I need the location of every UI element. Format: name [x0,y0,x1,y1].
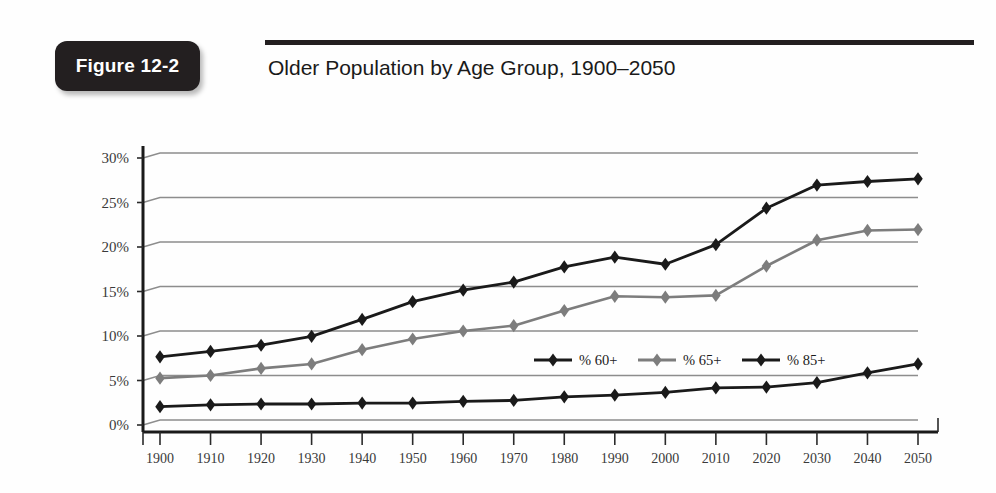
data-point [661,386,671,399]
data-point [812,234,822,247]
data-point [256,362,266,375]
data-point [711,289,721,302]
data-point [206,369,216,382]
data-point [560,304,570,317]
data-point [812,376,822,389]
data-point [863,175,873,188]
data-point [863,366,873,379]
data-point [812,178,822,191]
data-point [458,324,468,337]
title-rule-divider [265,40,974,45]
data-point [509,394,519,407]
data-point [206,398,216,411]
gridline-20% [143,242,918,247]
x-tick-label-2000: 2000 [651,451,679,466]
data-point [560,390,570,403]
gridline-0% [143,420,918,425]
data-point [206,345,216,358]
data-point [762,380,772,393]
figure-number-badge: Figure 12-2 [55,41,200,91]
x-tick-label-1930: 1930 [298,451,326,466]
data-point [155,350,165,363]
gridline-25% [143,198,918,203]
x-tick-label-1990: 1990 [601,451,629,466]
gridline-30% [143,153,918,158]
gridline-10% [143,331,918,336]
x-tick-label-1980: 1980 [550,451,578,466]
legend-item--60-: % 60+ [534,352,617,368]
data-point [560,260,570,273]
data-point [357,343,367,356]
data-point [610,388,620,401]
data-point [509,319,519,332]
data-point [256,397,266,410]
x-tick-label-1920: 1920 [247,451,275,466]
data-point [661,258,671,271]
data-point [307,397,317,410]
legend-label: % 65+ [683,352,721,368]
data-point [610,290,620,303]
y-tick-label-15%: 15% [102,284,130,300]
series--60- [155,172,923,363]
data-point [458,395,468,408]
chart-canvas: 1900191019201930194019501960197019801990… [0,120,996,493]
x-axis-ticks-group: 1900191019201930194019501960197019801990… [143,432,932,466]
data-point [155,400,165,413]
legend-item--65-: % 65+ [638,352,721,368]
x-tick-label-1950: 1950 [399,451,427,466]
data-point [155,372,165,385]
x-tick-label-2020: 2020 [752,451,780,466]
x-tick-label-1910: 1910 [197,451,225,466]
data-point [610,251,620,264]
gridline-15% [143,287,918,292]
data-point [357,396,367,409]
series-line [160,179,918,357]
data-point [408,295,418,308]
x-tick-label-1940: 1940 [348,451,376,466]
y-tick-label-0%: 0% [109,417,129,433]
legend-swatch-marker [548,353,558,366]
chart-legend: % 60+% 65+% 85+ [534,352,825,368]
page-title: Older Population by Age Group, 1900–2050 [268,56,968,80]
x-tick-label-2030: 2030 [803,451,831,466]
y-tick-label-20%: 20% [102,239,130,255]
legend-swatch-marker [652,353,662,366]
y-axis-ticks-group: 0%5%10%15%20%25%30% [102,150,144,433]
x-tick-label-1970: 1970 [500,451,528,466]
data-point [458,283,468,296]
x-tick-label-1960: 1960 [449,451,477,466]
data-point [307,357,317,370]
data-series-group [155,172,923,413]
data-point [913,357,923,370]
figure-number-label: Figure 12-2 [76,55,180,77]
data-point [711,381,721,394]
data-point [307,330,317,343]
data-point [913,223,923,236]
legend-item--85-: % 85+ [742,352,825,368]
y-tick-label-25%: 25% [102,195,130,211]
x-tick-label-2050: 2050 [904,451,932,466]
legend-label: % 85+ [787,352,825,368]
data-point [863,224,873,237]
x-tick-label-1900: 1900 [146,451,174,466]
data-point [357,313,367,326]
data-point [256,339,266,352]
x-tick-label-2040: 2040 [853,451,881,466]
data-point [711,238,721,251]
legend-label: % 60+ [579,352,617,368]
gridline-5% [143,376,918,381]
data-point [762,259,772,272]
data-point [408,396,418,409]
legend-swatch-marker [756,353,766,366]
y-tick-label-5%: 5% [109,373,129,389]
line-chart: 1900191019201930194019501960197019801990… [0,120,996,493]
series-line [160,364,918,407]
data-point [408,332,418,345]
data-point [762,202,772,215]
data-point [661,291,671,304]
x-tick-label-2010: 2010 [702,451,730,466]
figure-header: Figure 12-2 Older Population by Age Grou… [0,0,996,120]
y-tick-label-30%: 30% [102,150,130,166]
data-point [913,172,923,185]
y-tick-label-10%: 10% [102,328,130,344]
